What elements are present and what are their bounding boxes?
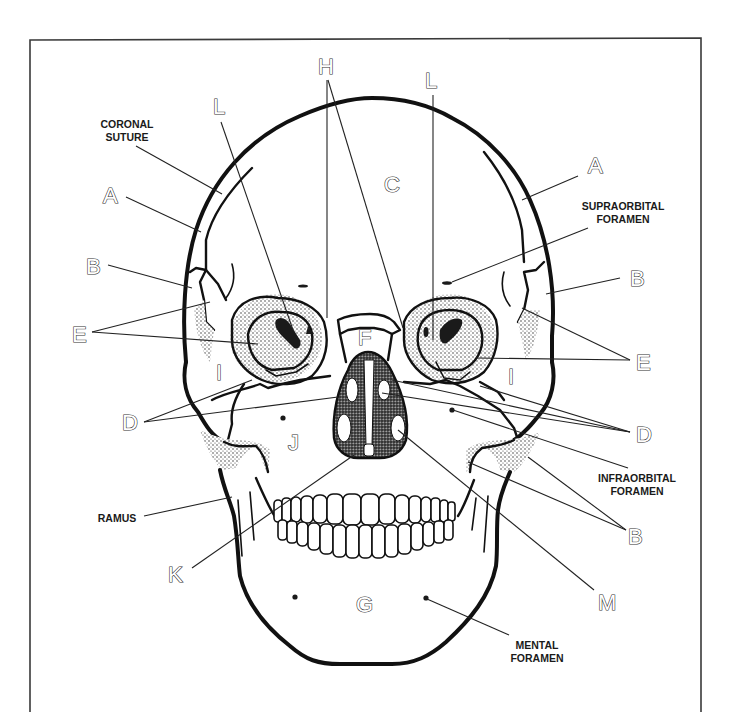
skull-diagram: H L L C A A B B E E F I I D D J B K M G …: [0, 0, 736, 712]
upper-teeth: [274, 494, 455, 525]
label-i-right: I: [508, 364, 514, 389]
label-c: C: [384, 172, 400, 197]
label-b-right-upper: B: [630, 266, 645, 291]
label-j: J: [288, 430, 299, 455]
label-a-left: A: [103, 183, 118, 208]
label-k: K: [168, 562, 183, 587]
label-m: M: [598, 590, 616, 615]
term-infraorbital-2: FORAMEN: [610, 485, 663, 497]
label-b-right-lower: B: [628, 524, 643, 549]
label-a-right: A: [588, 153, 603, 178]
term-coronal-suture-1: CORONAL: [100, 118, 154, 130]
label-b-left: B: [86, 254, 101, 279]
label-i-left: I: [216, 360, 222, 385]
label-l-left: L: [213, 94, 225, 119]
label-d-right: D: [636, 422, 652, 447]
skull-illustration: [184, 98, 553, 664]
label-f: F: [358, 325, 371, 350]
label-g: G: [356, 592, 373, 617]
label-h: H: [318, 54, 334, 79]
term-infraorbital-1: INFRAORBITAL: [598, 472, 677, 484]
lower-teeth: [278, 520, 453, 558]
term-ramus: RAMUS: [98, 512, 137, 524]
term-supraorbital-2: FORAMEN: [596, 213, 649, 225]
term-supraorbital-1: SUPRAORBITAL: [582, 200, 665, 212]
label-e-right: E: [636, 350, 651, 375]
label-l-right: L: [425, 68, 437, 93]
term-mental-foramen-1: MENTAL: [516, 639, 560, 651]
label-e-left: E: [72, 322, 87, 347]
term-mental-foramen-2: FORAMEN: [510, 652, 563, 664]
label-d-left: D: [122, 410, 138, 435]
term-coronal-suture-2: SUTURE: [105, 131, 148, 143]
